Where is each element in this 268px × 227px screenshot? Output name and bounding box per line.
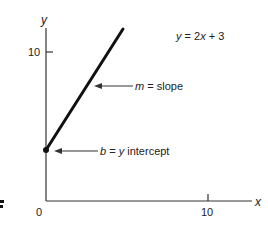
function-line <box>46 29 123 150</box>
y-axis-label: y <box>40 13 48 27</box>
x-axis-label: x <box>254 195 262 209</box>
x-tick-label-10: 10 <box>201 206 213 218</box>
slope-annotation: m = slope <box>135 80 183 92</box>
slope-arrowhead-icon <box>94 83 102 89</box>
equation-label: y = 2x + 3 <box>175 30 224 42</box>
x-tick-label-0: 0 <box>36 206 42 218</box>
intercept-arrowhead-icon <box>54 148 62 154</box>
linear-graph-diagram: y x 10 0 10 y = 2x + 3 m = slope b = y i… <box>0 0 268 227</box>
edge-mark <box>0 200 4 203</box>
intercept-point <box>43 147 49 153</box>
edge-mark <box>0 205 3 208</box>
intercept-annotation: b = y intercept <box>100 145 169 157</box>
y-tick-label-10: 10 <box>28 46 40 58</box>
